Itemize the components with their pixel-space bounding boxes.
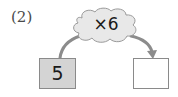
- operation-label: ×6: [84, 14, 128, 34]
- answer-box[interactable]: [133, 58, 169, 89]
- left-connector-arrow: [60, 36, 80, 58]
- input-box: 5: [39, 58, 76, 89]
- input-value: 5: [40, 59, 75, 88]
- right-connector-arrow: [131, 36, 152, 52]
